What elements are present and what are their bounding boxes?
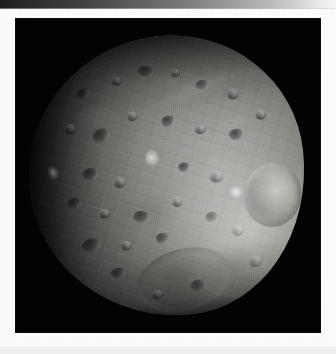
phobos-photo <box>15 18 321 333</box>
image-noise <box>15 22 319 329</box>
page-root <box>0 0 336 354</box>
page-bottom-edge <box>0 345 336 354</box>
phobos-body-wrap <box>15 18 321 333</box>
phobos-body <box>15 22 319 329</box>
